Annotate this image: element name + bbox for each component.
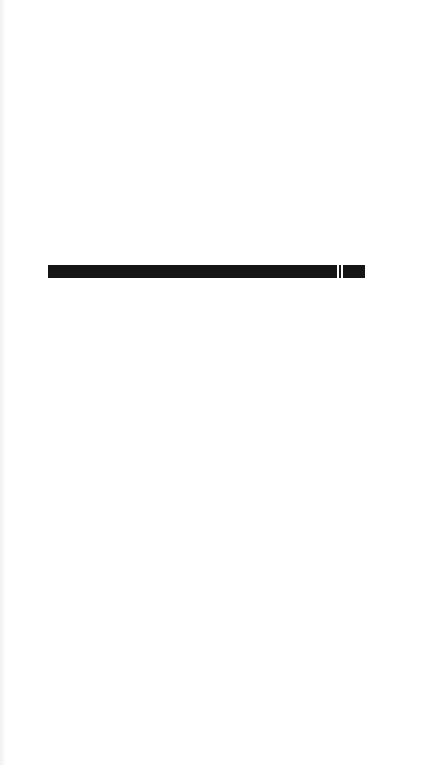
progress-fill	[48, 265, 337, 278]
progress-remaining	[343, 265, 365, 278]
blank-screen	[0, 0, 436, 765]
left-edge-shadow	[0, 0, 5, 765]
progress-bar	[48, 265, 365, 278]
